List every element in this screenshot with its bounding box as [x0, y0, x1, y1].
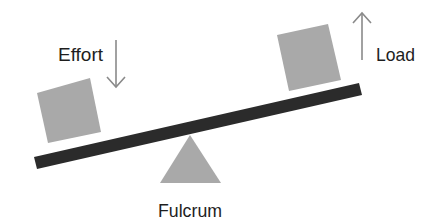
- load-arrow-up-icon: [353, 13, 371, 60]
- effort-arrow-down-icon: [107, 40, 125, 87]
- load-label: Load: [376, 44, 415, 65]
- fulcrum-triangle: [160, 135, 221, 183]
- effort-box: [37, 78, 101, 143]
- lever-diagram: Effort Load Fulcrum: [0, 0, 446, 224]
- load-box: [277, 24, 341, 91]
- fulcrum-label: Fulcrum: [158, 200, 222, 221]
- effort-label: Effort: [58, 44, 104, 65]
